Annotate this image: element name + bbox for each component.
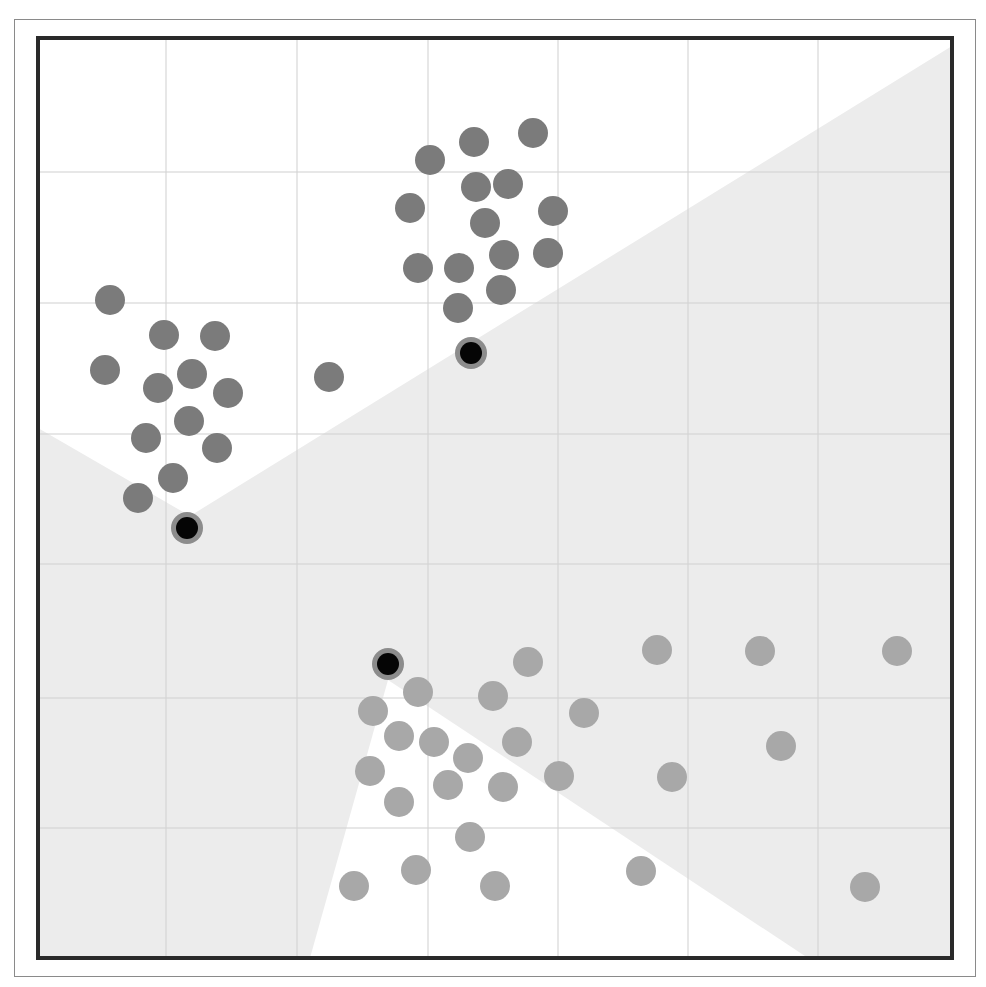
data-point: [158, 463, 188, 493]
data-point: [200, 321, 230, 351]
data-point: [415, 145, 445, 175]
data-point: [569, 698, 599, 728]
centroid-marker: [460, 342, 482, 364]
data-point: [766, 731, 796, 761]
centroid-marker: [377, 653, 399, 675]
data-point: [443, 293, 473, 323]
centroid-3: [372, 648, 404, 680]
data-point: [90, 355, 120, 385]
data-point: [478, 681, 508, 711]
data-point: [213, 378, 243, 408]
data-point: [384, 721, 414, 751]
data-point: [626, 856, 656, 886]
data-point: [470, 208, 500, 238]
data-point: [355, 756, 385, 786]
scatter-plot: [0, 0, 986, 987]
data-point: [453, 743, 483, 773]
data-point: [433, 770, 463, 800]
figure: [0, 0, 986, 987]
data-point: [489, 240, 519, 270]
data-point: [486, 275, 516, 305]
data-point: [95, 285, 125, 315]
data-point: [403, 677, 433, 707]
data-point: [518, 118, 548, 148]
data-point: [657, 762, 687, 792]
data-point: [455, 822, 485, 852]
data-point: [202, 433, 232, 463]
data-point: [177, 359, 207, 389]
data-point: [444, 253, 474, 283]
data-point: [339, 871, 369, 901]
data-point: [745, 636, 775, 666]
data-point: [174, 406, 204, 436]
data-point: [314, 362, 344, 392]
data-point: [395, 193, 425, 223]
data-point: [533, 238, 563, 268]
data-point: [502, 727, 532, 757]
centroid-marker: [176, 517, 198, 539]
data-point: [461, 172, 491, 202]
data-point: [493, 169, 523, 199]
data-point: [850, 872, 880, 902]
data-point: [538, 196, 568, 226]
centroid-1: [171, 512, 203, 544]
data-point: [401, 855, 431, 885]
data-point: [403, 253, 433, 283]
data-point: [642, 635, 672, 665]
data-point: [488, 772, 518, 802]
data-point: [123, 483, 153, 513]
data-point: [544, 761, 574, 791]
data-point: [384, 787, 414, 817]
centroid-2: [455, 337, 487, 369]
data-point: [480, 871, 510, 901]
data-point: [419, 727, 449, 757]
data-point: [131, 423, 161, 453]
data-point: [513, 647, 543, 677]
data-point: [882, 636, 912, 666]
data-point: [358, 696, 388, 726]
data-point: [143, 373, 173, 403]
data-point: [459, 127, 489, 157]
data-point: [149, 320, 179, 350]
